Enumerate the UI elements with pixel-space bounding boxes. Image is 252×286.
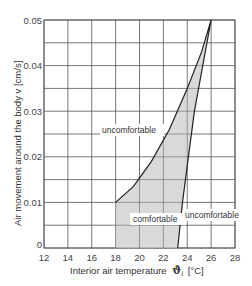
y-axis-label: Air movement around the body v [cm/s] (12, 61, 23, 226)
x-tick-label: 26 (206, 252, 217, 263)
x-axis-unit: [°C] (188, 265, 204, 276)
x-tick-label: 14 (63, 252, 74, 263)
y-tick-label: 0.01 (24, 197, 43, 208)
y-axis-ticks: 00.010.020.030.040.05 (24, 15, 43, 251)
x-tick-label: 16 (86, 252, 97, 263)
y-tick-label: 0.03 (24, 106, 43, 117)
annotation-uncomfortable-right: uncomfortable (185, 210, 239, 220)
annotation-comfortable: comfortable (133, 214, 178, 224)
x-tick-label: 22 (158, 252, 169, 263)
y-tick-label: 0 (37, 239, 42, 250)
y-tick-label: 0.04 (24, 60, 43, 71)
x-axis-label-text: Interior air temperature (70, 265, 167, 276)
x-tick-label: 20 (134, 252, 145, 263)
x-tick-label: 12 (39, 252, 50, 263)
x-tick-label: 28 (230, 252, 241, 263)
x-axis-subscript: i (182, 270, 184, 277)
annotation-uncomfortable-upper: uncomfortable (102, 125, 156, 135)
x-tick-label: 18 (110, 252, 121, 263)
x-axis-symbol: ϑ (172, 264, 181, 277)
x-tick-label: 24 (182, 252, 193, 263)
x-axis-ticks: 121416182022242628 (39, 252, 241, 263)
y-tick-label: 0.05 (24, 15, 43, 26)
comfort-chart: 121416182022242628 00.010.020.030.040.05… (0, 0, 252, 286)
y-tick-label: 0.02 (24, 151, 43, 162)
x-axis-label: Interior air temperature ϑi [°C] (70, 264, 204, 278)
